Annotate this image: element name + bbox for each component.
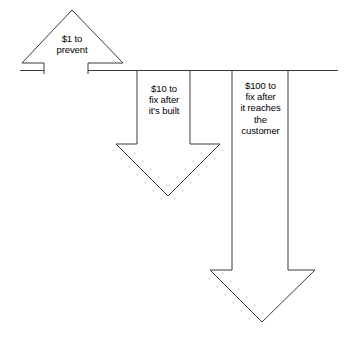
cost-of-defects-diagram: $1 to prevent $10 to fix after it's buil… xyxy=(0,0,350,339)
stage-label-prevent: $1 to prevent xyxy=(40,33,104,55)
stage-label-fix-after-customer: $100 to fix after it reaches the custome… xyxy=(233,80,288,136)
stage-label-fix-after-built: $10 to fix after it's built xyxy=(138,83,190,117)
